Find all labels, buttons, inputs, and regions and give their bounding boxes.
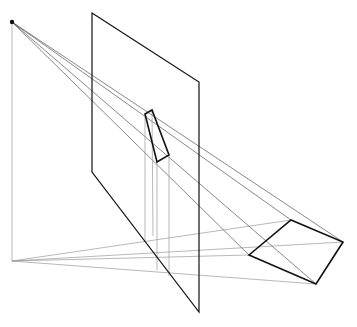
eye-point <box>10 20 14 24</box>
picture-plane <box>92 13 199 312</box>
diagram-canvas <box>0 0 357 327</box>
projector-verticals <box>145 110 169 276</box>
object-quad <box>249 220 343 284</box>
perspective-diagram <box>0 0 357 327</box>
